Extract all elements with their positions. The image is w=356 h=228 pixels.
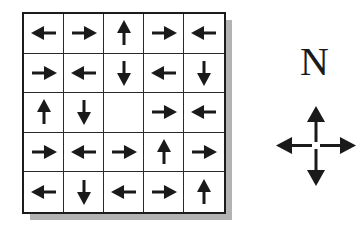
arrow-right-icon bbox=[29, 137, 59, 167]
grid-cell bbox=[184, 14, 224, 54]
grid-cell bbox=[24, 172, 64, 212]
arrow-up-icon bbox=[109, 18, 139, 48]
grid-cell bbox=[24, 54, 64, 94]
grid-cell bbox=[104, 93, 144, 133]
grid-cell bbox=[64, 172, 104, 212]
arrow-left-icon bbox=[149, 58, 179, 88]
grid-cell bbox=[144, 14, 184, 54]
compass-north-arrow-icon bbox=[307, 106, 325, 122]
arrow-right-icon bbox=[149, 97, 179, 127]
arrow-down-icon bbox=[69, 97, 99, 127]
grid-cell bbox=[64, 93, 104, 133]
arrow-left-icon bbox=[189, 18, 219, 48]
arrow-right-icon bbox=[109, 137, 139, 167]
arrow-right-icon bbox=[29, 58, 59, 88]
grid-cell bbox=[184, 172, 224, 212]
grid-cell bbox=[64, 54, 104, 94]
arrow-up-icon bbox=[29, 97, 59, 127]
arrow-up-icon bbox=[189, 177, 219, 207]
arrow-left-icon bbox=[69, 137, 99, 167]
grid-cell bbox=[184, 54, 224, 94]
arrow-right-icon bbox=[149, 18, 179, 48]
grid-cell bbox=[184, 93, 224, 133]
grid-cell bbox=[144, 54, 184, 94]
north-label: N bbox=[300, 42, 329, 82]
grid-cell bbox=[104, 172, 144, 212]
grid-cell bbox=[24, 14, 64, 54]
arrow-right-icon bbox=[149, 177, 179, 207]
grid-cell bbox=[104, 14, 144, 54]
arrow-left-icon bbox=[29, 177, 59, 207]
arrow-right-icon bbox=[69, 18, 99, 48]
grid-cell bbox=[24, 133, 64, 173]
grid-cell bbox=[144, 133, 184, 173]
grid-cell bbox=[104, 133, 144, 173]
grid-cell bbox=[64, 14, 104, 54]
arrow-grid bbox=[22, 12, 226, 214]
compass-rose-icon bbox=[276, 104, 356, 188]
arrow-left-icon bbox=[29, 18, 59, 48]
arrow-left-icon bbox=[69, 58, 99, 88]
arrow-right-icon bbox=[189, 137, 219, 167]
arrow-up-icon bbox=[149, 137, 179, 167]
grid-cell bbox=[24, 93, 64, 133]
compass-east-arrow-icon bbox=[340, 137, 356, 154]
grid-cell bbox=[64, 133, 104, 173]
grid-cell bbox=[144, 172, 184, 212]
grid-cell bbox=[104, 54, 144, 94]
arrow-grid-diagram bbox=[22, 12, 224, 212]
grid-cell bbox=[144, 93, 184, 133]
compass-west-arrow-icon bbox=[276, 137, 292, 154]
compass-south-arrow-icon bbox=[307, 170, 325, 186]
arrow-left-icon bbox=[189, 97, 219, 127]
arrow-down-icon bbox=[69, 177, 99, 207]
arrow-down-icon bbox=[189, 58, 219, 88]
arrow-down-icon bbox=[109, 58, 139, 88]
grid-cell bbox=[184, 133, 224, 173]
arrow-left-icon bbox=[109, 177, 139, 207]
